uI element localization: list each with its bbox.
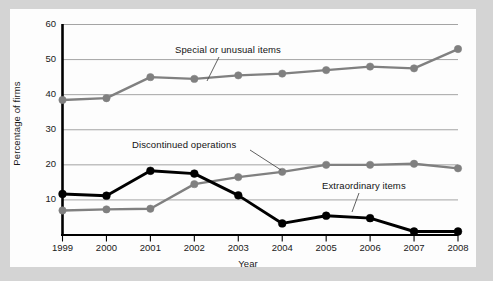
x-tick-label: 2000 <box>85 242 127 253</box>
data-point <box>322 212 330 220</box>
data-point <box>279 70 286 77</box>
leader-line <box>250 150 281 170</box>
data-point <box>366 63 373 70</box>
data-point <box>191 75 198 82</box>
data-point <box>103 192 111 200</box>
chart-plot-area <box>0 0 493 281</box>
x-tick-label: 2002 <box>173 242 215 253</box>
data-point <box>147 73 154 80</box>
y-tick-label: 50 <box>30 53 56 64</box>
data-point <box>234 191 242 199</box>
data-point <box>190 170 198 178</box>
x-tick-label: 2001 <box>129 242 171 253</box>
data-point <box>59 96 66 103</box>
data-point <box>103 94 110 101</box>
data-point <box>366 161 373 168</box>
data-point <box>278 220 286 228</box>
y-tick-label: 40 <box>30 88 56 99</box>
data-point <box>410 65 417 72</box>
x-tick-label: 2006 <box>349 242 391 253</box>
series-line-0 <box>63 49 459 100</box>
leader-line <box>352 193 359 212</box>
x-axis-title: Year <box>208 258 288 269</box>
data-point <box>410 160 417 167</box>
y-tick-label: 60 <box>30 18 56 29</box>
data-point <box>454 165 461 172</box>
y-tick-label: 30 <box>30 123 56 134</box>
x-tick-label: 2008 <box>437 242 479 253</box>
data-point <box>454 228 462 236</box>
x-tick-label: 2005 <box>305 242 347 253</box>
data-point <box>410 228 418 236</box>
x-tick-label: 2003 <box>217 242 259 253</box>
data-point <box>59 207 66 214</box>
data-point <box>146 167 154 175</box>
series-label-extraordinary-items: Extraordinary items <box>322 180 406 191</box>
y-tick-label: 10 <box>30 193 56 204</box>
data-point <box>454 45 461 52</box>
series-label-special-or-unusual-items: Special or unusual items <box>175 44 281 55</box>
data-point <box>366 214 374 222</box>
data-series-layer <box>59 45 462 235</box>
data-point <box>322 161 329 168</box>
x-tick-label: 2007 <box>393 242 435 253</box>
chart-figure: Percentage of firms Year 102030405060 19… <box>0 0 493 281</box>
data-point <box>147 205 154 212</box>
data-point <box>322 66 329 73</box>
data-point <box>191 180 198 187</box>
series-label-discontinued-operations: Discontinued operations <box>132 139 236 150</box>
data-point <box>235 173 242 180</box>
y-tick-label: 20 <box>30 158 56 169</box>
y-axis-title: Percentage of firms <box>11 74 22 174</box>
x-tick-label: 2004 <box>261 242 303 253</box>
x-tick-label: 1999 <box>42 242 84 253</box>
data-point <box>235 72 242 79</box>
data-point <box>103 206 110 213</box>
data-point <box>59 190 67 198</box>
